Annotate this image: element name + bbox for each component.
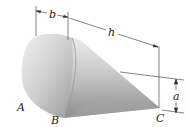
diagram-canvas: b h a A B C [0,0,190,127]
label-a: a [173,90,180,103]
label-point-a: A [16,101,25,114]
label-b: b [49,8,56,21]
label-h: h [108,26,115,39]
solid-body [22,34,160,118]
label-point-b: B [50,114,59,127]
cap-surface [22,34,73,118]
label-point-c: C [156,112,165,125]
